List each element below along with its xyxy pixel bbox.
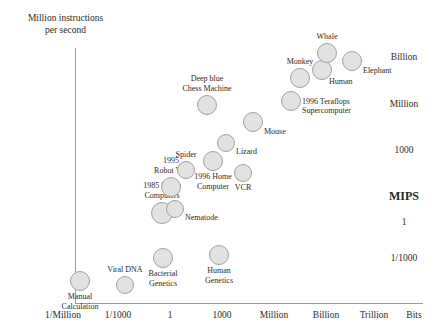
data-point-label: HumanGenetics — [205, 266, 233, 285]
y-axis-line — [75, 48, 76, 304]
data-point-label: Monkey — [287, 57, 314, 67]
x-axis-line — [75, 303, 423, 304]
data-point-label-line: Human — [205, 266, 233, 276]
x-axis-tick-4: Million — [260, 310, 289, 321]
data-point-bubble[interactable] — [203, 151, 223, 171]
data-point-label: Lizard — [236, 147, 257, 157]
data-point-bubble[interactable] — [217, 134, 235, 152]
x-axis-tick-0: 1/Million — [45, 310, 81, 321]
data-point-label: Elephant — [363, 66, 391, 76]
x-axis-tick-2: 1 — [168, 310, 173, 321]
x-axis-tick-6: Trillion — [360, 310, 389, 321]
data-point-label-line: Monkey — [287, 57, 314, 67]
data-point-label-line: Spider — [176, 150, 197, 160]
data-point-label-line: Elephant — [363, 66, 391, 76]
data-point-label-line: Calculation — [62, 302, 99, 312]
data-point-label: 1996 HomeComputer — [194, 172, 232, 191]
data-point-label: Nematode — [185, 213, 218, 223]
data-point-label: BacterialGenetics — [149, 269, 178, 288]
data-point-label-line: Mouse — [264, 127, 286, 137]
data-point-label-line: Chess Machine — [182, 84, 231, 94]
data-point-label-line: Human — [329, 77, 353, 87]
data-point-label-line: Genetics — [205, 276, 233, 286]
data-point-bubble[interactable] — [197, 95, 217, 115]
mips-vs-bits-scatter-chart: Million instructions per second BillionM… — [0, 0, 437, 334]
data-point-label: Human — [329, 77, 353, 87]
data-point-label-line: Computer — [194, 182, 232, 192]
data-point-bubble[interactable] — [281, 91, 301, 111]
y-axis-name-label: MIPS — [371, 191, 437, 202]
data-point-label: Spider — [176, 150, 197, 160]
x-axis-tick-5: Billion — [313, 310, 339, 321]
data-point-label: ManualCalculation — [62, 292, 99, 311]
data-point-label: Deep blueChess Machine — [182, 74, 231, 93]
y-axis-tick-0: Billion — [371, 52, 437, 63]
data-point-label: Viral DNA — [107, 265, 142, 275]
data-point-label-line: Manual — [62, 292, 99, 302]
data-point-bubble[interactable] — [290, 68, 310, 88]
data-point-bubble[interactable] — [209, 245, 229, 265]
data-point-label-line: Nematode — [185, 213, 218, 223]
data-point-bubble[interactable] — [116, 276, 134, 294]
data-point-bubble[interactable] — [234, 164, 252, 182]
data-point-bubble[interactable] — [177, 161, 195, 179]
x-axis-name-label: Bits — [406, 310, 421, 321]
data-point-label-line: 1996 Teraflops — [302, 97, 351, 107]
data-point-bubble[interactable] — [166, 200, 184, 218]
y-axis-caption-line1: Million instructions — [28, 13, 103, 23]
data-point-label-line: VCR — [235, 183, 251, 193]
data-point-label-line: Deep blue — [182, 74, 231, 84]
x-axis-tick-3: 1000 — [213, 310, 232, 321]
y-axis-tick-1: Million — [371, 99, 437, 110]
data-point-bubble[interactable] — [70, 271, 90, 291]
data-point-label-line: Supercomputer — [302, 106, 351, 116]
data-point-label: Whale — [317, 32, 338, 42]
data-point-label-line: Lizard — [236, 147, 257, 157]
data-point-label-line: Whale — [317, 32, 338, 42]
data-point-label-line: Bacterial — [149, 269, 178, 279]
data-point-bubble[interactable] — [161, 177, 181, 197]
data-point-label: 1996 TeraflopsSupercomputer — [302, 97, 351, 116]
data-point-label: Mouse — [264, 127, 286, 137]
x-axis-tick-1: 1/1000 — [105, 310, 131, 321]
y-axis-tick-5: 1/1000 — [371, 253, 437, 264]
data-point-bubble[interactable] — [153, 248, 173, 268]
data-point-bubble[interactable] — [317, 43, 337, 63]
data-point-bubble[interactable] — [342, 51, 362, 71]
y-axis-tick-4: 1 — [371, 217, 437, 228]
data-point-label-line: 1996 Home — [194, 172, 232, 182]
y-axis-caption-line2: per second — [8, 24, 123, 36]
data-point-label-line: Genetics — [149, 279, 178, 289]
data-point-label-line: Viral DNA — [107, 265, 142, 275]
y-axis-caption: Million instructions per second — [8, 12, 123, 36]
y-axis-tick-2: 1000 — [371, 145, 437, 156]
data-point-label: VCR — [235, 183, 251, 193]
data-point-bubble[interactable] — [243, 112, 263, 132]
